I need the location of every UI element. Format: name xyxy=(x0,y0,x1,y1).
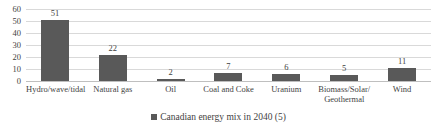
bar-value-label: 51 xyxy=(51,9,60,18)
chart-legend: Canadian energy mix in 2040 (5) xyxy=(0,112,437,122)
bar-slot: 51 xyxy=(26,9,84,81)
bar xyxy=(157,79,185,81)
x-axis-category-label: Uranium xyxy=(257,84,315,94)
y-axis-tick-label: 60 xyxy=(13,5,22,14)
x-axis-category-label: Hydro/wave/tidal xyxy=(26,84,84,94)
bar-series: 5122276511 xyxy=(26,9,431,81)
bar xyxy=(41,20,69,81)
y-axis-tick-label: 40 xyxy=(13,29,22,38)
bar xyxy=(330,75,358,81)
y-axis-tick-label: 30 xyxy=(13,41,22,50)
bar-value-label: 7 xyxy=(226,62,230,71)
bar-value-label: 5 xyxy=(342,64,346,73)
bar-slot: 5 xyxy=(315,9,373,81)
bar xyxy=(214,73,242,81)
bar-slot: 11 xyxy=(373,9,431,81)
y-axis-tick-label: 20 xyxy=(13,53,22,62)
bar-chart: 6050403020100 5122276511 Hydro/wave/tida… xyxy=(0,0,437,128)
y-axis-tick-label: 50 xyxy=(13,17,22,26)
bar-slot: 2 xyxy=(142,9,200,81)
bar xyxy=(99,55,127,81)
bar-value-label: 22 xyxy=(109,44,118,53)
bar-slot: 6 xyxy=(257,9,315,81)
x-axis-category-label: Natural gas xyxy=(84,84,142,94)
x-axis-line xyxy=(26,81,431,82)
bar-value-label: 11 xyxy=(398,57,406,66)
bar-value-label: 6 xyxy=(284,63,288,72)
x-axis-category-label: Biomass/Solar/ Geothermal xyxy=(315,84,373,104)
y-axis: 6050403020100 xyxy=(0,9,24,81)
y-axis-tick-label: 0 xyxy=(17,77,21,86)
bar-slot: 7 xyxy=(200,9,258,81)
x-axis-category-label: Wind xyxy=(373,84,431,94)
x-axis: Hydro/wave/tidalNatural gasOilCoal and C… xyxy=(26,84,431,108)
y-axis-tick-label: 10 xyxy=(13,65,22,74)
bar xyxy=(272,74,300,81)
bar-slot: 22 xyxy=(84,9,142,81)
bar xyxy=(388,68,416,81)
x-axis-category-label: Coal and Coke xyxy=(200,84,258,94)
bar-value-label: 2 xyxy=(169,68,173,77)
legend-label: Canadian energy mix in 2040 (5) xyxy=(160,112,286,122)
legend-swatch xyxy=(151,114,157,120)
x-axis-category-label: Oil xyxy=(142,84,200,94)
